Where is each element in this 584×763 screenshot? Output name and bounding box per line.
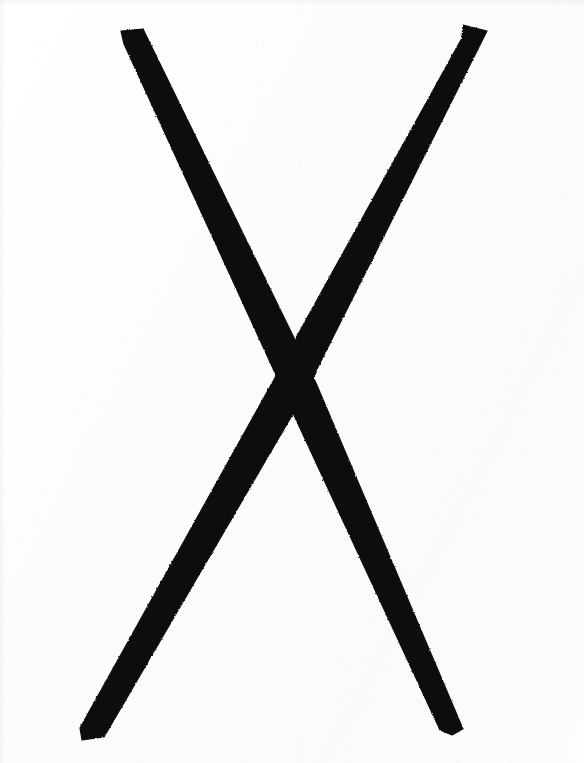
x-mark-illustration: A large hand-drawn black X made of two t… bbox=[0, 0, 584, 763]
drawing-canvas: A large hand-drawn black X made of two t… bbox=[0, 0, 584, 763]
stroke-group bbox=[80, 25, 487, 740]
top-right-to-bottom-left-stroke bbox=[80, 25, 487, 740]
